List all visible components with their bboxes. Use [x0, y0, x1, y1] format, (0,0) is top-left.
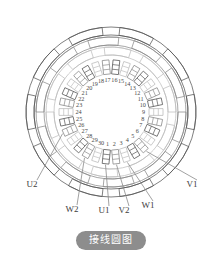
- slot-bar-divider: [153, 128, 156, 134]
- end-winding-arc: [69, 179, 154, 197]
- slot-bar: [59, 109, 73, 116]
- slot-bar: [102, 149, 110, 164]
- end-winding-arc: [36, 47, 78, 112]
- slot-bar: [112, 149, 120, 164]
- slot-bar-divider: [75, 84, 79, 90]
- slot-bar: [144, 124, 160, 136]
- slot-bar-divider: [69, 118, 70, 125]
- slot-bar-divider: [132, 69, 138, 72]
- slot-number: 7: [139, 121, 142, 128]
- slot-bar-divider: [71, 92, 74, 98]
- diagram-canvas: 1234567891011121314151617181920212223242…: [0, 0, 222, 263]
- end-winding-arc: [157, 86, 176, 151]
- wiring-circle-diagram: 1234567891011121314151617181920212223242…: [0, 0, 222, 263]
- slot-number: 15: [118, 77, 124, 84]
- terminal-label-w1: W1: [142, 200, 155, 210]
- slot-bar-divider: [87, 147, 93, 150]
- slot-number: 18: [98, 77, 104, 84]
- slot-bar-divider: [144, 134, 148, 140]
- slot-bar-divider: [95, 70, 101, 72]
- slot-bar-divider: [122, 156, 128, 158]
- slot-bar-divider: [95, 152, 101, 154]
- slot-bar-divider: [77, 145, 82, 150]
- slot-bar: [112, 60, 120, 75]
- slot-bar-divider: [75, 134, 79, 140]
- slot-bar-divider: [152, 100, 153, 107]
- terminal-label-v2: V2: [119, 205, 130, 215]
- slot-number: 17: [105, 76, 111, 83]
- slot-bar-divider: [64, 99, 65, 106]
- slot-bar-divider: [144, 84, 148, 90]
- slot-bar-divider: [103, 159, 110, 160]
- slot-number: 30: [98, 139, 104, 146]
- slot-number: 8: [141, 115, 144, 122]
- slot-number: 19: [92, 80, 98, 87]
- slot-bar-divider: [77, 75, 82, 80]
- terminal-lead-u2: [37, 134, 63, 180]
- slot-bar: [59, 117, 74, 127]
- slot-bar-divider: [157, 119, 158, 126]
- terminal-lead-w1: [127, 162, 153, 201]
- slot-bar-divider: [71, 126, 74, 132]
- slot-bar-divider: [113, 65, 120, 66]
- slot-bar: [149, 109, 163, 116]
- slot-bar-divider: [103, 154, 110, 155]
- slot-bar-divider: [71, 137, 75, 143]
- caption-container: 接线圆图: [0, 232, 222, 249]
- slot-number: 2: [113, 140, 116, 147]
- end-winding-arc: [46, 74, 65, 139]
- slot-bar-divider: [122, 66, 128, 68]
- slot-bar: [102, 60, 110, 75]
- terminal-label-w2: W2: [66, 204, 79, 214]
- slot-bar-divider: [93, 156, 100, 158]
- slot-bar: [134, 71, 148, 86]
- end-winding-arc: [88, 37, 161, 62]
- end-winding-arc: [145, 112, 187, 177]
- slot-bar: [62, 124, 78, 136]
- slot-bar: [67, 132, 82, 146]
- slot-bar-divider: [137, 141, 142, 146]
- slot-number: 4: [126, 136, 129, 143]
- slot-bar-divider: [140, 75, 145, 80]
- slot-bar-divider: [152, 118, 153, 125]
- slot-bar-divider: [153, 90, 156, 96]
- slot-bar-divider: [103, 69, 110, 70]
- slot-number: 16: [111, 76, 117, 83]
- slot-bar-divider: [87, 73, 93, 76]
- slot-bar-divider: [103, 65, 110, 66]
- slot-number: 29: [92, 136, 98, 143]
- slot-bar-divider: [71, 81, 75, 87]
- slot-bar-divider: [64, 119, 65, 126]
- slot-bar-divider: [121, 152, 127, 154]
- slot-bar: [148, 98, 163, 108]
- slot-number: 14: [124, 80, 130, 87]
- terminal-label-v1: V1: [187, 179, 198, 189]
- slot-bar: [67, 79, 82, 93]
- slot-bar-divider: [149, 92, 152, 98]
- slot-bar-divider: [93, 66, 100, 68]
- slot-bar-divider: [84, 69, 90, 72]
- slot-bar-divider: [80, 78, 85, 83]
- slot-bar: [59, 98, 74, 108]
- slot-bar-divider: [137, 78, 142, 83]
- slot-bar-divider: [84, 151, 90, 154]
- slot-bar-divider: [149, 126, 152, 132]
- slot-bar-divider: [69, 100, 70, 107]
- end-winding-arc: [61, 162, 134, 187]
- slot-number: 1: [106, 140, 109, 147]
- slot-bar-divider: [129, 73, 135, 76]
- end-winding-arc: [69, 27, 154, 45]
- slot-bar-divider: [66, 90, 69, 96]
- slot-bar-divider: [121, 70, 127, 72]
- slot-bar-divider: [157, 99, 158, 106]
- terminal-label-u1: U1: [99, 205, 110, 215]
- slot-bar: [140, 79, 155, 93]
- slot-bar: [62, 88, 78, 100]
- slot-bar-divider: [132, 151, 138, 154]
- terminal-label-u2: U2: [27, 179, 38, 189]
- slot-bar-divider: [112, 69, 119, 70]
- slot-bar-divider: [113, 159, 120, 160]
- slot-bar-divider: [129, 147, 135, 150]
- slot-bar: [74, 138, 88, 153]
- terminal-lead-u1: [106, 165, 110, 206]
